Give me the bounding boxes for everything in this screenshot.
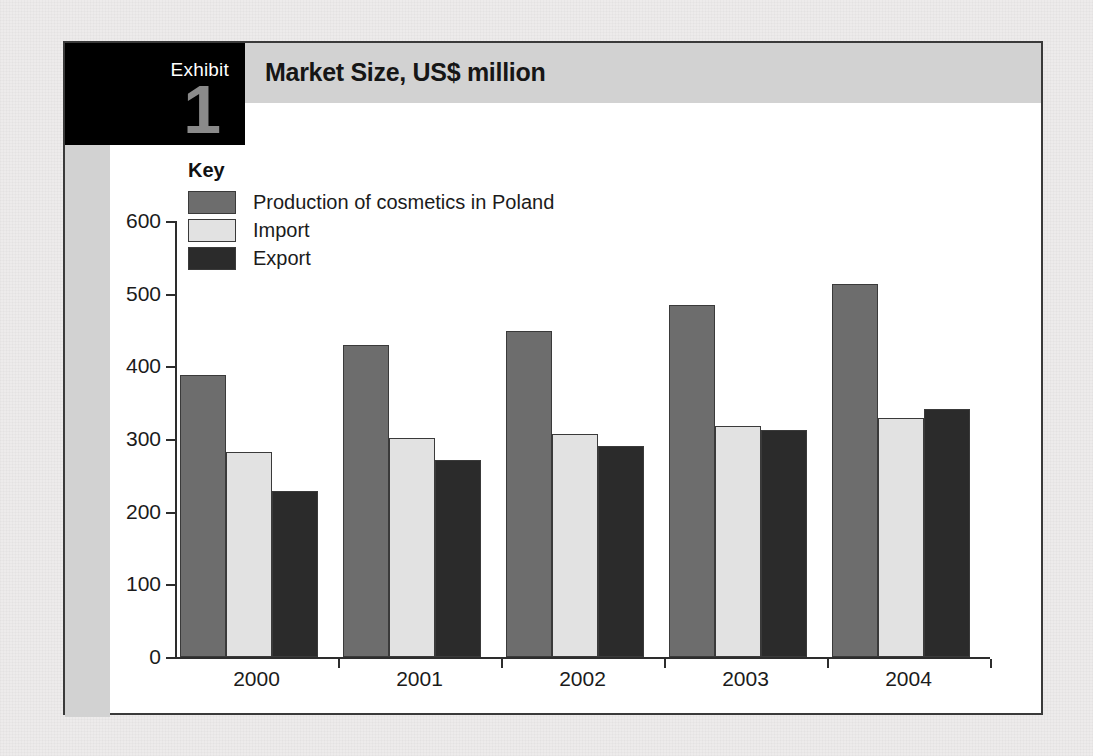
bar [180,375,226,657]
legend-item: Export [188,247,554,270]
bar [669,305,715,657]
bar [272,491,318,657]
exhibit-frame: Exhibit 1 Market Size, US$ million Key P… [63,41,1043,715]
y-tick-label: 200 [126,500,161,524]
x-tick-mark [827,659,829,668]
bar [343,345,389,657]
bar [226,452,272,657]
x-tick-label: 2003 [664,667,827,691]
x-tick-mark [338,659,340,668]
legend-item-label: Production of cosmetics in Poland [253,191,554,214]
bar [435,460,481,657]
legend-swatch-icon [188,219,236,242]
y-tick-mark [166,657,175,659]
x-tick-label: 2004 [827,667,990,691]
legend-item: Import [188,219,554,242]
y-tick-label: 600 [126,209,161,233]
y-tick-mark [166,512,175,514]
y-tick-label: 300 [126,427,161,451]
x-tick-mark [664,659,666,668]
page-title: Market Size, US$ million [265,58,545,87]
x-tick-mark [990,659,992,668]
bar [924,409,970,657]
legend-item: Production of cosmetics in Poland [188,191,554,214]
x-tick-label: 2002 [501,667,664,691]
y-tick-label: 500 [126,282,161,306]
y-tick-label: 0 [149,645,161,669]
bar [878,418,924,657]
y-tick-mark [166,366,175,368]
bar [389,438,435,657]
y-tick-mark [166,584,175,586]
x-tick-mark [501,659,503,668]
bar [761,430,807,657]
bar [598,446,644,657]
bar-group: 2001 [338,219,501,657]
chart-legend: Key Production of cosmetics in PolandImp… [188,159,554,275]
legend-swatch-icon [188,247,236,270]
y-tick-mark [166,439,175,441]
legend-item-label: Export [253,247,311,270]
x-tick-label: 2001 [338,667,501,691]
legend-item-label: Import [253,219,310,242]
legend-swatch-icon [188,191,236,214]
y-tick-mark [166,221,175,223]
y-tick-mark [166,294,175,296]
exhibit-number: 1 [183,75,221,143]
exhibit-badge: Exhibit 1 [65,43,245,145]
legend-items: Production of cosmetics in PolandImportE… [188,191,554,270]
bar-group: 2004 [827,219,990,657]
x-tick-label: 2000 [175,667,338,691]
left-grey-band [65,103,110,717]
plot-area: 0100200300400500600 20002001200220032004 [175,221,990,659]
y-tick-label: 400 [126,354,161,378]
bar [715,426,761,657]
bar [552,434,598,657]
legend-title: Key [188,159,554,182]
x-axis [175,657,990,659]
bar [506,331,552,657]
bar [832,284,878,658]
bar-group: 2000 [175,219,338,657]
y-tick-label: 100 [126,572,161,596]
bar-group: 2003 [664,219,827,657]
bar-group: 2002 [501,219,664,657]
